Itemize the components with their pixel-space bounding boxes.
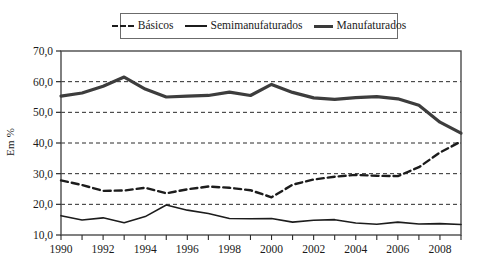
y-tick-label: 30,0 bbox=[33, 168, 53, 181]
x-tick-label: 1998 bbox=[218, 243, 241, 255]
x-tick-label: 1994 bbox=[134, 243, 157, 255]
y-tick-label: 50,0 bbox=[33, 106, 53, 119]
plot-area: 70,060,050,040,030,020,010,0199019921994… bbox=[0, 0, 478, 267]
series-line-semimanufaturados bbox=[61, 205, 461, 225]
x-tick-label: 1990 bbox=[50, 243, 73, 255]
x-tick-label: 2004 bbox=[344, 243, 367, 255]
x-tick-label: 1992 bbox=[92, 243, 115, 255]
y-tick-label: 70,0 bbox=[33, 45, 53, 58]
y-tick-label: 20,0 bbox=[33, 198, 53, 211]
x-tick-label: 1996 bbox=[176, 243, 199, 255]
x-tick-label: 2006 bbox=[386, 243, 409, 255]
chart-figure: Básicos Semimanufaturados Manufaturados … bbox=[0, 0, 478, 267]
y-tick-label: 60,0 bbox=[33, 76, 53, 89]
chart-svg: 70,060,050,040,030,020,010,0199019921994… bbox=[0, 0, 478, 267]
series-line-manufaturados bbox=[61, 77, 461, 133]
x-tick-label: 2002 bbox=[302, 243, 325, 255]
x-tick-label: 2000 bbox=[260, 243, 283, 255]
y-tick-label: 40,0 bbox=[33, 137, 53, 150]
y-tick-label: 10,0 bbox=[33, 229, 53, 242]
x-tick-label: 2008 bbox=[428, 243, 451, 255]
series-line-básicos bbox=[61, 141, 461, 197]
